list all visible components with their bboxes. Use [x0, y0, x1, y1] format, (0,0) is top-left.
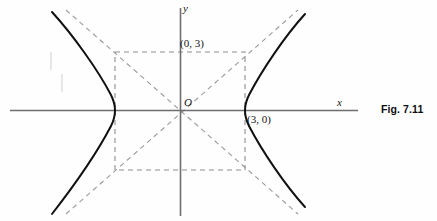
point-label-top-vertex: (0, 3): [180, 37, 204, 49]
figure-caption: Fig. 7.11: [381, 103, 423, 115]
point-label-right-vertex: (3, 0): [247, 113, 271, 125]
figure-container: y x O (0, 3) (3, 0) Fig. 7.11: [0, 0, 437, 221]
hyperbola-plot: [0, 0, 437, 221]
x-axis-label: x: [337, 96, 342, 108]
y-axis-label: y: [183, 2, 188, 14]
hyperbola-left-branch: [52, 12, 115, 214]
origin-label: O: [184, 96, 192, 108]
